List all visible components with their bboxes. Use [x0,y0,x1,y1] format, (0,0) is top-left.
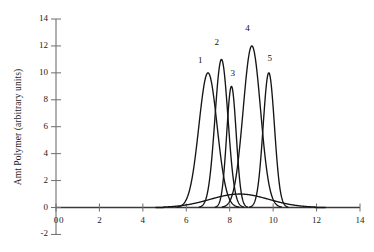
chart-figure: Amt Polymer (arbitrary units) 0246810121… [0,0,374,252]
peak-label-4: 4 [245,23,250,33]
x-tick-label: 4 [133,215,153,225]
y-axis-title: Amt Polymer (arbitrary units) [13,68,23,185]
x-tick-label: 6 [176,215,196,225]
y-tick-label: 10 [26,67,48,77]
curve-peak-2 [199,59,243,207]
y-tick-label: 12 [26,40,48,50]
x-tick-label: 12 [307,215,327,225]
y-tick-label: 6 [26,121,48,131]
y-tick-label: 2 [26,175,48,185]
peak-label-5: 5 [267,53,272,63]
peak-label-3: 3 [230,68,235,78]
x-tick-label: 2 [89,215,109,225]
curves-group [156,46,325,208]
y-tick-label: 0 [26,202,48,212]
x-tick-label: 10 [263,215,283,225]
curve-peak-5 [250,73,288,207]
origin-label: 0 [59,215,64,225]
y-tick-label: 4 [26,148,48,158]
y-tick-label: 14 [26,13,48,23]
peak-label-1: 1 [198,55,203,65]
y-tick-label: 8 [26,94,48,104]
y-tick-label: -2 [26,228,48,238]
x-tick-label: 8 [220,215,240,225]
axes-group [51,19,360,234]
x-tick-label: 14 [350,215,370,225]
peak-label-2: 2 [214,37,219,47]
